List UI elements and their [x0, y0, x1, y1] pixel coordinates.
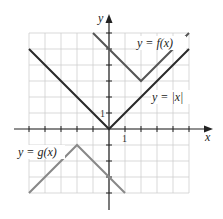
graph: y = f(x) y = |x| y = g(x) x y 1 1	[0, 0, 223, 219]
f-label: y = f(x)	[136, 36, 173, 50]
x-axis-label: x	[204, 130, 211, 144]
g-label: y = g(x)	[17, 145, 57, 159]
y-axis-label: y	[97, 11, 104, 25]
y-axis-arrow-icon	[106, 14, 113, 23]
x-tick-label: 1	[122, 133, 127, 144]
abs-label: y = |x|	[151, 90, 183, 104]
y-tick-label: 1	[100, 108, 105, 119]
